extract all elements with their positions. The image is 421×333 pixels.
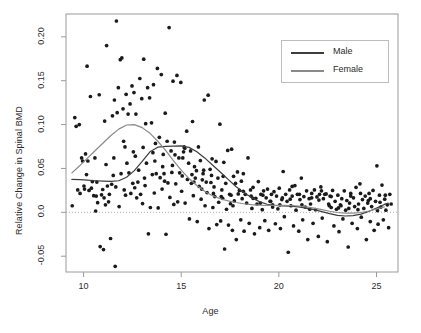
chart-legend: Male Female bbox=[281, 40, 389, 83]
x-tick-label: 25 bbox=[362, 281, 392, 291]
legend-swatch-male bbox=[291, 52, 324, 54]
legend-swatch-female bbox=[291, 70, 324, 72]
y-tick-label: 0.20 bbox=[36, 19, 46, 53]
y-tick-label: -0.05 bbox=[36, 238, 46, 272]
legend-label-female: Female bbox=[333, 64, 363, 74]
y-tick-label: 0.05 bbox=[36, 150, 46, 184]
y-tick-label: 0.15 bbox=[36, 63, 46, 97]
x-tick-label: 20 bbox=[264, 281, 294, 291]
y-axis-title: Relative Change in Spinal BMD bbox=[14, 106, 24, 235]
chart-figure: 10152025-0.050.00.050.100.150.20 Relativ… bbox=[0, 0, 421, 333]
x-tick-label: 15 bbox=[166, 281, 196, 291]
x-axis-title: Age bbox=[0, 306, 421, 316]
x-tick-label: 10 bbox=[69, 281, 99, 291]
legend-item-male: Male bbox=[282, 45, 390, 61]
legend-label-male: Male bbox=[333, 46, 353, 56]
y-tick-label: 0.0 bbox=[36, 194, 46, 228]
y-tick-label: 0.10 bbox=[36, 107, 46, 141]
legend-item-female: Female bbox=[282, 63, 390, 79]
